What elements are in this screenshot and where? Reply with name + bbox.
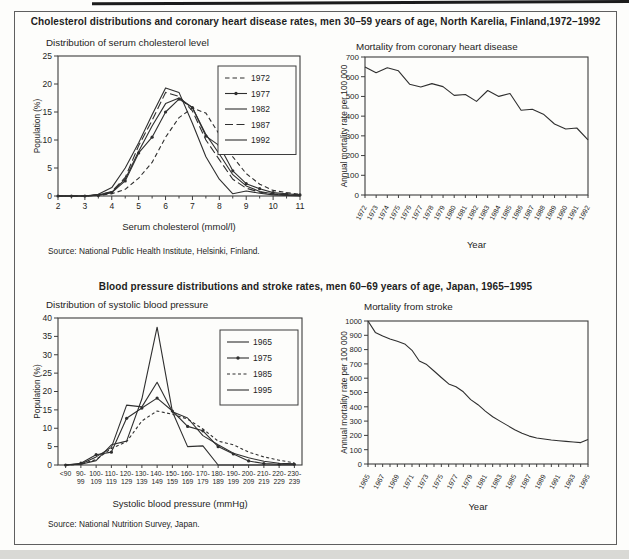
svg-text:149: 149 — [151, 478, 163, 485]
svg-text:160-: 160- — [181, 470, 195, 477]
y-axis: 0510152025303540 — [43, 313, 58, 470]
x-axis-title: Year — [468, 501, 487, 512]
svg-text:600: 600 — [349, 374, 362, 383]
svg-text:25: 25 — [43, 51, 53, 61]
svg-text:1987: 1987 — [251, 120, 270, 130]
svg-text:20: 20 — [43, 79, 53, 89]
svg-text:1967: 1967 — [372, 473, 386, 490]
svg-text:25: 25 — [43, 368, 53, 378]
svg-text:0: 0 — [358, 460, 362, 469]
scan-artifact-line — [92, 0, 629, 5]
svg-text:<90: <90 — [60, 470, 72, 477]
svg-text:1992: 1992 — [251, 135, 270, 145]
y-axis-title: Annual mortality rate per 100 000 — [340, 64, 349, 187]
svg-text:10: 10 — [43, 423, 53, 433]
svg-text:1973: 1973 — [416, 473, 430, 490]
x-axis: 1972197319741975197619771978197919801981… — [354, 195, 591, 221]
svg-text:1000: 1000 — [345, 317, 362, 326]
svg-text:10: 10 — [268, 201, 278, 211]
svg-text:1991: 1991 — [548, 473, 562, 490]
svg-text:5: 5 — [47, 441, 52, 451]
svg-text:209: 209 — [243, 478, 255, 485]
svg-text:1965: 1965 — [357, 473, 371, 490]
svg-text:99: 99 — [77, 478, 85, 485]
svg-text:35: 35 — [43, 331, 53, 341]
svg-text:6: 6 — [163, 201, 168, 211]
svg-text:200: 200 — [349, 431, 362, 440]
bp-distribution-chart: 0510152025303540Population (%)<9090-9910… — [32, 311, 317, 521]
series-Stroke mortality — [368, 321, 588, 443]
svg-text:1985: 1985 — [504, 473, 518, 490]
svg-text:1992: 1992 — [577, 204, 591, 221]
svg-text:3: 3 — [83, 201, 88, 211]
svg-text:1989: 1989 — [533, 473, 547, 490]
svg-text:800: 800 — [349, 345, 362, 354]
source-note-japan: Source: National Nutrition Survey, Japan… — [48, 519, 200, 529]
y-axis: 0510152025 — [43, 51, 58, 201]
svg-text:7: 7 — [190, 201, 195, 211]
svg-text:0: 0 — [47, 460, 52, 470]
legend: 19721977198219871992 — [218, 66, 296, 155]
svg-text:129: 129 — [121, 478, 133, 485]
svg-text:2: 2 — [56, 201, 61, 211]
x-axis-title: Year — [467, 239, 486, 250]
svg-text:1987: 1987 — [519, 473, 533, 490]
svg-text:20: 20 — [43, 386, 53, 396]
svg-text:40: 40 — [43, 313, 53, 323]
source-note-finland: Source: National Public Health Institute… — [48, 246, 260, 256]
svg-text:1969: 1969 — [387, 473, 401, 490]
svg-text:1971: 1971 — [401, 473, 415, 490]
svg-text:1975: 1975 — [253, 353, 272, 363]
svg-text:15: 15 — [43, 405, 53, 415]
svg-text:1995: 1995 — [577, 473, 591, 490]
chart-title-bp-distribution: Distribution of systolic blood pressure — [46, 299, 208, 310]
svg-text:1985: 1985 — [253, 369, 272, 379]
svg-text:140-: 140- — [150, 470, 164, 477]
svg-text:10: 10 — [43, 135, 53, 145]
svg-text:0: 0 — [47, 191, 52, 201]
svg-text:8: 8 — [217, 201, 222, 211]
svg-text:1995: 1995 — [253, 385, 272, 395]
cholesterol-distribution-chart: 0510152025Population (%)234567891011Seru… — [32, 50, 317, 242]
svg-text:700: 700 — [346, 53, 360, 62]
svg-text:180-: 180- — [211, 470, 225, 477]
svg-text:0: 0 — [355, 191, 360, 200]
svg-text:159: 159 — [167, 478, 179, 485]
svg-text:1982: 1982 — [251, 104, 270, 114]
panel-title-finland: Cholesterol distributions and coronary h… — [14, 16, 617, 27]
legend: 1965197519851995 — [220, 330, 298, 405]
svg-text:30: 30 — [43, 350, 53, 360]
svg-text:229: 229 — [273, 478, 285, 485]
svg-text:9: 9 — [244, 201, 249, 211]
stroke-mortality-chart: 01002003004005006007008009001000Annual m… — [340, 308, 625, 526]
svg-text:189: 189 — [212, 478, 224, 485]
scanned-report-page: { "figure": { "panels": [ { "title": "Ch… — [0, 0, 629, 559]
svg-text:1977: 1977 — [445, 473, 459, 490]
svg-text:120-: 120- — [120, 470, 134, 477]
svg-text:179: 179 — [197, 478, 209, 485]
y-axis-title: Population (%) — [32, 99, 42, 154]
svg-text:110-: 110- — [105, 470, 118, 477]
svg-text:220-: 220- — [272, 470, 286, 477]
svg-text:400: 400 — [349, 403, 362, 412]
svg-text:1981: 1981 — [475, 473, 489, 490]
svg-text:190-: 190- — [227, 470, 241, 477]
svg-text:130-: 130- — [135, 470, 149, 477]
svg-text:1979: 1979 — [460, 473, 474, 490]
plot-frame — [365, 57, 588, 195]
series-CHD mortality — [365, 67, 588, 140]
svg-text:700: 700 — [349, 360, 362, 369]
svg-text:15: 15 — [43, 107, 53, 117]
svg-text:169: 169 — [182, 478, 194, 485]
svg-text:219: 219 — [258, 478, 270, 485]
x-axis: 1965196719691971197319751977197919811983… — [357, 464, 591, 490]
panel-title-japan: Blood pressure distributions and stroke … — [14, 281, 617, 292]
svg-text:210-: 210- — [257, 470, 271, 477]
chart-title-cholesterol-distribution: Distribution of serum cholesterol level — [46, 37, 209, 48]
svg-text:90-: 90- — [76, 470, 86, 477]
y-axis-title: Annual mortality rate per 100 000 — [340, 331, 349, 454]
svg-text:1975: 1975 — [431, 473, 445, 490]
svg-text:500: 500 — [349, 388, 362, 397]
svg-text:5: 5 — [136, 201, 141, 211]
svg-text:1965: 1965 — [253, 337, 272, 347]
